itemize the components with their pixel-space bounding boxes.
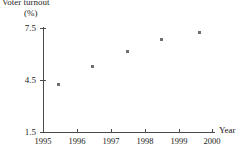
x-axis-line — [43, 132, 215, 133]
x-tick-label: 1999 — [163, 137, 195, 146]
data-point — [160, 38, 163, 41]
y-tick-label: 1.5 — [14, 128, 36, 137]
x-tick-label: 1995 — [27, 137, 59, 146]
x-tick-mark — [43, 129, 44, 133]
x-tick-label: 1998 — [129, 137, 161, 146]
y-tick-mark — [40, 28, 46, 29]
chart-title: Voter turnout — [2, 0, 50, 7]
x-axis-title: Year — [219, 126, 236, 135]
x-tick-label: 1996 — [61, 137, 93, 146]
y-axis-unit-label: (%) — [24, 9, 38, 18]
x-tick-mark — [77, 129, 78, 133]
x-tick-mark — [212, 129, 213, 133]
data-point — [198, 31, 201, 34]
data-point — [126, 50, 129, 53]
data-point — [57, 83, 60, 86]
data-point — [91, 65, 94, 68]
x-tick-mark — [179, 129, 180, 133]
x-tick-label: 1997 — [95, 137, 127, 146]
x-tick-mark — [145, 129, 146, 133]
x-tick-mark — [111, 129, 112, 133]
y-tick-label: 4.5 — [14, 76, 36, 85]
x-tick-label: 2000 — [196, 137, 228, 146]
voter-turnout-chart: Voter turnout (%) 7.5 4.5 1.5 1995 1996 … — [0, 0, 240, 159]
y-tick-label: 7.5 — [14, 24, 36, 33]
y-tick-mark — [40, 80, 46, 81]
